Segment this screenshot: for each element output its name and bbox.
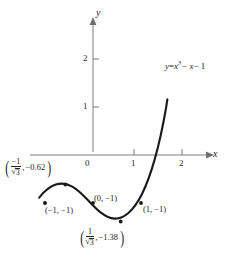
- point-marker-local-maximum: [63, 183, 67, 187]
- y-axis-label: y: [96, 8, 100, 18]
- local-min-y-value: −1.38: [98, 233, 118, 242]
- comma-local-min: ,: [95, 233, 97, 242]
- fraction-one-over-root-three: 1 3: [86, 228, 95, 247]
- x-tick-label-1: 1: [131, 159, 136, 168]
- local-maximum-annotation: ( −1 3 , −0.62 ): [4, 158, 52, 177]
- radical-icon: 3: [86, 238, 95, 247]
- y-tick-label-2: 2: [83, 54, 88, 63]
- equation-minus-x: − x: [181, 61, 193, 71]
- x-axis-label: x: [213, 149, 217, 159]
- y-tick-label-1: 1: [83, 102, 88, 111]
- local-minimum-annotation: ( 1 3 , −1.38 ): [79, 228, 125, 247]
- equation-minus-one: − 1: [193, 61, 205, 71]
- paren-close-local-max: ): [47, 162, 51, 174]
- radical-icon: 3: [12, 168, 21, 177]
- paren-close-local-min: ): [120, 232, 124, 244]
- paren-open-local-max: (: [5, 162, 9, 174]
- comma-local-max: ,: [22, 163, 24, 172]
- function-equation-label: y=x3− x− 1: [165, 62, 205, 71]
- point-label-neg-one: (−1, −1): [45, 206, 73, 215]
- point-label-one: (1, −1): [143, 205, 166, 214]
- origin-label: 0: [85, 159, 90, 168]
- fraction-denominator: 3: [11, 167, 22, 177]
- function-graph-figure: [0, 0, 228, 256]
- fraction-denominator: 3: [86, 237, 95, 247]
- local-max-y-value: −0.62: [25, 163, 45, 172]
- x-tick-label-2: 2: [179, 159, 184, 168]
- point-marker-local-minimum: [119, 220, 123, 224]
- paren-open-local-min: (: [80, 232, 84, 244]
- point-label-zero: (0, −1): [94, 194, 117, 203]
- fraction-neg-one-over-root-three: −1 3: [11, 158, 22, 177]
